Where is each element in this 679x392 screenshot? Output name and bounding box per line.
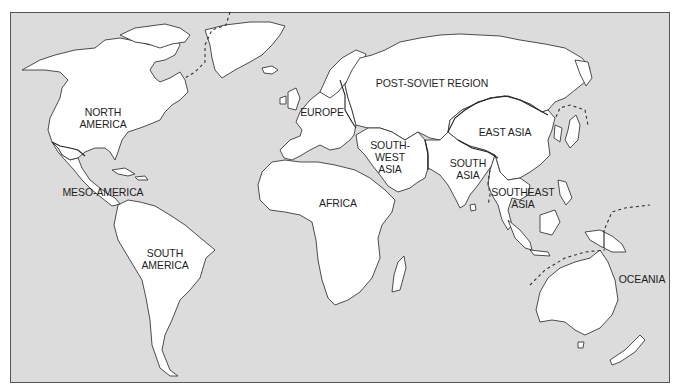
label-southwest-asia: SOUTH- WEST ASIA (368, 139, 412, 175)
oceania-dashed-boundary-north (605, 205, 650, 228)
south-america-landmass (114, 200, 215, 376)
java (530, 250, 550, 256)
label-north-america: NORTH AMERICA (73, 106, 133, 130)
ireland (280, 96, 286, 104)
philippines (558, 180, 572, 205)
label-oceania: OCEANIA (615, 273, 669, 285)
north-america-landmass (22, 38, 188, 160)
new-zealand (610, 335, 645, 365)
new-guinea (585, 230, 626, 252)
africa-landmass (258, 160, 395, 305)
label-southeast-asia: SOUTHEAST ASIA (490, 186, 556, 210)
sri-lanka (470, 204, 476, 211)
caribbean-islands-2 (135, 176, 148, 180)
australia (536, 250, 618, 335)
korea (554, 125, 562, 142)
sumatra (508, 220, 532, 250)
iceland (262, 66, 278, 74)
borneo (540, 210, 560, 235)
caribbean-islands (112, 168, 135, 176)
japan (565, 115, 580, 148)
label-east-asia: EAST ASIA (470, 126, 540, 138)
label-south-asia: SOUTH ASIA (448, 157, 488, 181)
label-south-america: SOUTH AMERICA (135, 247, 195, 271)
tasmania (578, 342, 584, 348)
label-meso-america: MESO-AMERICA (58, 186, 148, 198)
label-europe: EUROPE (297, 106, 347, 118)
madagascar (392, 256, 406, 292)
label-africa: AFRICA (313, 197, 363, 209)
label-post-soviet: POST-SOVIET REGION (374, 77, 490, 89)
